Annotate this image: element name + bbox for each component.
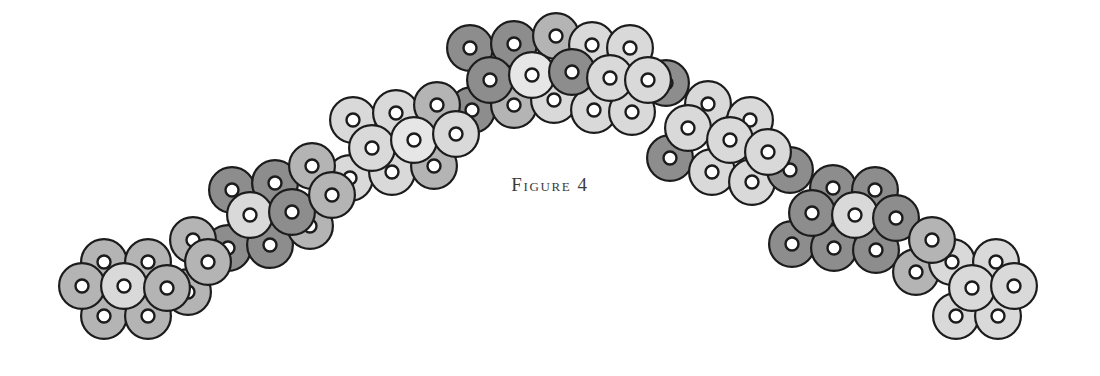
disc-hole-icon	[890, 212, 903, 225]
disc-hole-icon	[702, 98, 715, 111]
disc-hole-icon	[828, 242, 841, 255]
disc-hole-icon	[142, 310, 155, 323]
disc-hole-icon	[202, 256, 215, 269]
disc-hole-icon	[306, 160, 319, 173]
disc-hole-icon	[508, 38, 521, 51]
disc-hole-icon	[347, 114, 360, 127]
disc-marker	[433, 111, 479, 157]
disc-hole-icon	[526, 69, 539, 82]
disc-hole-icon	[624, 42, 637, 55]
disc-hole-icon	[1008, 280, 1021, 293]
disc-hole-icon	[849, 209, 862, 222]
disc-hole-icon	[428, 160, 441, 173]
disc-marker	[909, 217, 955, 263]
disc-hole-icon	[806, 207, 819, 220]
disc-hole-icon	[286, 206, 299, 219]
disc-hole-icon	[431, 99, 444, 112]
disc-marker	[745, 129, 791, 175]
disc-hole-icon	[76, 280, 89, 293]
disc-hole-icon	[682, 122, 695, 135]
disc-hole-icon	[926, 234, 939, 247]
disc-hole-icon	[118, 280, 131, 293]
disc-marker	[665, 105, 711, 151]
disc-marker	[509, 52, 555, 98]
disc-hole-icon	[244, 209, 257, 222]
disc-hole-icon	[550, 30, 563, 43]
disc-hole-icon	[586, 39, 599, 52]
disc-hole-icon	[910, 266, 923, 279]
disc-hole-icon	[566, 66, 579, 79]
disc-hole-icon	[762, 146, 775, 159]
disc-hole-icon	[950, 310, 963, 323]
disc-hole-icon	[870, 244, 883, 257]
disc-marker	[832, 192, 878, 238]
disc-hole-icon	[142, 256, 155, 269]
disc-hole-icon	[724, 134, 737, 147]
disc-marker	[949, 265, 995, 311]
disc-hole-icon	[664, 152, 677, 165]
disc-hole-icon	[264, 239, 277, 252]
figure-caption: Figure 4	[0, 172, 1100, 198]
disc-marker	[349, 125, 395, 171]
disc-hole-icon	[548, 94, 561, 107]
disc-hole-icon	[626, 106, 639, 119]
disc-hole-icon	[508, 99, 521, 112]
disc-marker	[467, 57, 513, 103]
disc-marker	[625, 57, 671, 103]
disc-hole-icon	[588, 104, 601, 117]
disc-marker	[391, 117, 437, 163]
disc-hole-icon	[786, 238, 799, 251]
figure-container: Figure 4	[0, 0, 1100, 376]
disc-hole-icon	[98, 256, 111, 269]
disc-hole-icon	[161, 282, 174, 295]
disc-marker	[101, 263, 147, 309]
disc-hole-icon	[450, 128, 463, 141]
disc-marker	[59, 263, 105, 309]
disc-marker	[227, 192, 273, 238]
disc-hole-icon	[408, 134, 421, 147]
disc-hole-icon	[98, 310, 111, 323]
disc-marker	[991, 263, 1037, 309]
disc-hole-icon	[464, 42, 477, 55]
disc-hole-icon	[642, 74, 655, 87]
disc-hole-icon	[604, 72, 617, 85]
disc-marker	[144, 265, 190, 311]
disc-hole-icon	[366, 142, 379, 155]
disc-hole-icon	[966, 282, 979, 295]
disc-marker	[185, 239, 231, 285]
disc-hole-icon	[484, 74, 497, 87]
disc-hole-icon	[390, 107, 403, 120]
disc-hole-icon	[992, 310, 1005, 323]
